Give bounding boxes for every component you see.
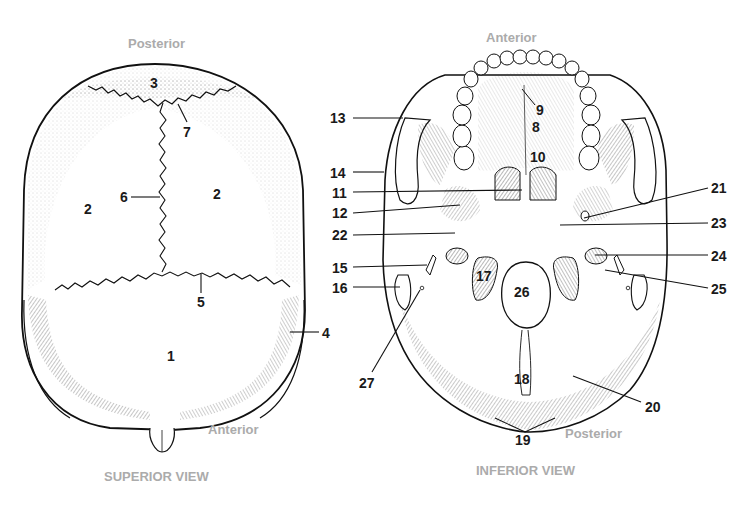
label-10: 10 <box>530 150 546 164</box>
label-16: 16 <box>332 281 348 295</box>
label-22: 22 <box>332 228 348 242</box>
skull-illustration <box>0 0 750 510</box>
label-2-left: 2 <box>84 202 92 216</box>
superior-view-skull <box>22 64 319 452</box>
label-25: 25 <box>711 282 727 296</box>
label-24: 24 <box>711 249 727 263</box>
label-3: 3 <box>150 76 158 90</box>
label-15: 15 <box>332 261 348 275</box>
label-19: 19 <box>515 433 531 447</box>
label-14: 14 <box>330 166 346 180</box>
inferior-view-skull <box>353 50 708 432</box>
label-12: 12 <box>332 206 348 220</box>
label-17: 17 <box>476 269 492 283</box>
superior-orientation-top: Posterior <box>128 37 185 50</box>
label-4: 4 <box>322 326 330 340</box>
label-8: 8 <box>532 120 540 134</box>
label-20: 20 <box>645 400 661 414</box>
label-11: 11 <box>332 186 347 200</box>
label-2-right: 2 <box>213 187 221 201</box>
label-9: 9 <box>536 103 544 117</box>
label-26: 26 <box>514 285 530 299</box>
label-6: 6 <box>120 190 128 204</box>
inferior-view-title: INFERIOR VIEW <box>476 464 575 477</box>
label-5: 5 <box>197 295 205 309</box>
label-13: 13 <box>330 111 346 125</box>
label-21: 21 <box>711 181 727 195</box>
inferior-orientation-top: Anterior <box>486 31 537 44</box>
label-7: 7 <box>183 125 191 139</box>
label-18: 18 <box>514 372 530 386</box>
label-23: 23 <box>711 216 727 230</box>
skull-diagram: Posterior Anterior SUPERIOR VIEW 1 2 2 3… <box>0 0 750 510</box>
superior-orientation-bottom: Anterior <box>208 423 259 436</box>
inferior-orientation-bottom: Posterior <box>565 427 622 440</box>
superior-view-title: SUPERIOR VIEW <box>104 470 209 483</box>
label-1: 1 <box>167 349 175 363</box>
label-27: 27 <box>359 376 375 390</box>
